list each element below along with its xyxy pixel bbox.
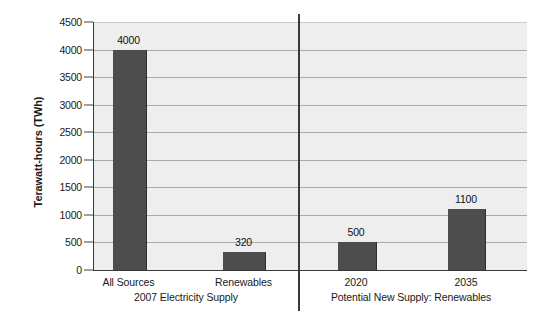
gridline xyxy=(94,50,527,51)
bar-value-label: 500 xyxy=(316,226,396,238)
gridline xyxy=(94,77,527,78)
y-tick-label: 3000 xyxy=(59,99,82,111)
bar-chart: Terawatt-hours (TWh) 4500400035003000250… xyxy=(0,0,546,329)
x-category-label: Renewables xyxy=(184,276,304,288)
y-tick-mark xyxy=(84,159,93,160)
bar xyxy=(223,252,266,270)
x-group-label: 2007 Electricity Supply xyxy=(76,291,296,303)
x-group-label: Potential New Supply: Renewables xyxy=(301,291,521,303)
bar xyxy=(113,50,147,270)
y-tick-label: 1000 xyxy=(59,209,82,221)
gridline xyxy=(94,187,527,188)
y-tick-mark xyxy=(84,104,93,105)
y-tick-label: 4000 xyxy=(59,44,82,56)
x-category-label: 2035 xyxy=(406,276,526,288)
y-tick-mark xyxy=(84,270,93,271)
plot-area xyxy=(93,22,527,271)
x-category-label: All Sources xyxy=(69,276,189,288)
y-tick-label: 0 xyxy=(76,264,82,276)
gridline xyxy=(94,22,527,23)
bar-value-label: 4000 xyxy=(89,34,169,46)
y-tick-mark xyxy=(84,77,93,78)
y-tick-mark xyxy=(84,49,93,50)
y-tick-label: 2000 xyxy=(59,154,82,166)
y-tick-label: 1500 xyxy=(59,181,82,193)
y-tick-mark xyxy=(84,242,93,243)
y-tick-label: 500 xyxy=(65,236,82,248)
y-tick-mark xyxy=(84,132,93,133)
y-tick-mark xyxy=(84,22,93,23)
bar-value-label: 320 xyxy=(204,236,284,248)
bar-value-label: 1100 xyxy=(426,193,506,205)
gridline xyxy=(94,132,527,133)
bar xyxy=(448,209,486,270)
gridline xyxy=(94,160,527,161)
group-divider xyxy=(298,14,300,311)
y-tick-mark xyxy=(84,187,93,188)
y-tick-label: 2500 xyxy=(59,126,82,138)
y-tick-label: 3500 xyxy=(59,71,82,83)
bar xyxy=(338,242,377,270)
y-tick-label: 4500 xyxy=(59,16,82,28)
gridline xyxy=(94,105,527,106)
x-category-label: 2020 xyxy=(296,276,416,288)
y-tick-mark xyxy=(84,214,93,215)
